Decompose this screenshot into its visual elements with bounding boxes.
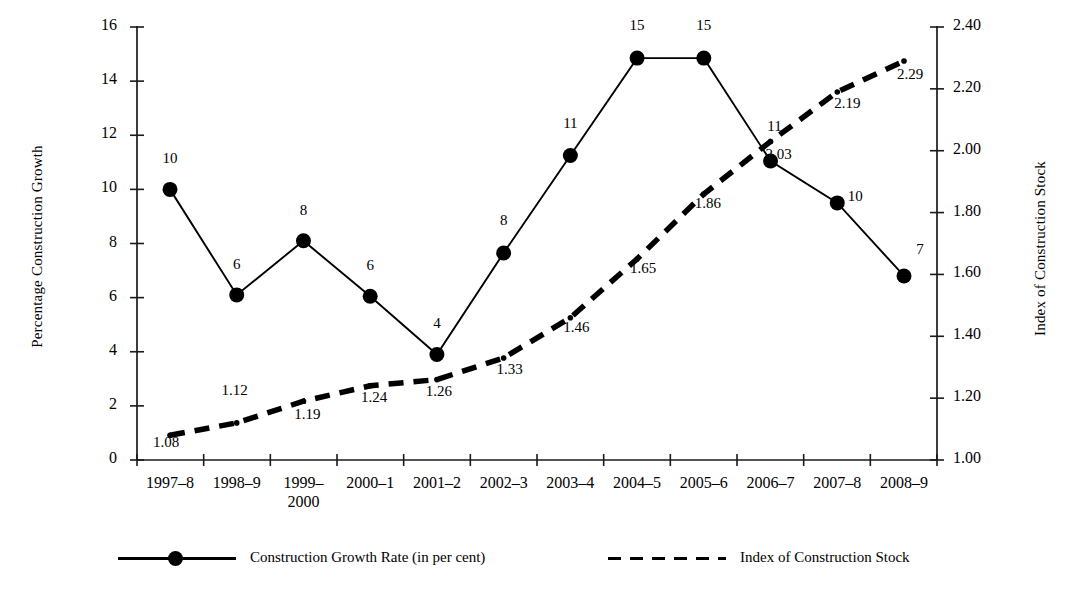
legend-label-construction-stock: Index of Construction Stock: [740, 549, 910, 566]
data-label-construction-stock: 1.26: [409, 383, 469, 400]
x-axis-tick-label: 2008–9: [858, 473, 950, 492]
data-label-growth-rate: 8: [273, 202, 333, 219]
data-point-growth-rate[interactable]: [163, 182, 178, 197]
data-label-construction-stock: 1.86: [678, 195, 738, 212]
y-axis-right-tick-label: 2.40: [953, 16, 999, 34]
legend-swatch-dashed-line-icon: [608, 551, 726, 565]
data-label-growth-rate: 6: [340, 257, 400, 274]
y-axis-right-tick-label: 2.00: [953, 140, 999, 158]
data-label-growth-rate: 4: [407, 315, 467, 332]
data-label-growth-rate: 10: [825, 188, 885, 205]
y-axis-left-tick-label: 14: [83, 70, 117, 88]
y-axis-left-tick-label: 16: [83, 16, 117, 34]
data-label-growth-rate: 15: [607, 17, 667, 34]
data-label-growth-rate: 10: [140, 150, 200, 167]
data-label-growth-rate: 6: [207, 256, 267, 273]
data-label-construction-stock: 1.19: [277, 406, 337, 423]
data-label-growth-rate: 11: [745, 118, 805, 135]
y-axis-left-tick-label: 12: [83, 124, 117, 142]
data-label-construction-stock: 2.19: [817, 95, 877, 112]
y-axis-left-tick-label: 2: [83, 395, 117, 413]
chart-figure: Percentage Construction Growth Index of …: [0, 0, 1075, 597]
data-point-growth-rate[interactable]: [563, 148, 578, 163]
y-axis-right-tick-label: 2.20: [953, 78, 999, 96]
data-point-growth-rate[interactable]: [496, 245, 511, 260]
y-axis-right-tick-label: 1.40: [953, 325, 999, 343]
chart-legend: Construction Growth Rate (in per cent) I…: [0, 545, 1075, 585]
data-label-construction-stock: 1.46: [546, 319, 606, 336]
legend-swatch-solid-line-icon: [118, 551, 236, 565]
data-point-growth-rate[interactable]: [897, 268, 912, 283]
data-point-construction-stock[interactable]: [501, 355, 507, 361]
y-axis-left-tick-label: 6: [83, 287, 117, 305]
y-axis-right-tick-label: 1.00: [953, 449, 999, 467]
data-label-construction-stock: 1.24: [344, 389, 404, 406]
data-point-growth-rate[interactable]: [229, 287, 244, 302]
legend-item-construction-stock[interactable]: Index of Construction Stock: [608, 549, 910, 566]
data-label-growth-rate: 11: [540, 115, 600, 132]
data-label-growth-rate: 15: [674, 17, 734, 34]
data-point-growth-rate[interactable]: [630, 51, 645, 66]
data-point-growth-rate[interactable]: [363, 289, 378, 304]
data-point-construction-stock[interactable]: [367, 383, 373, 389]
data-label-growth-rate: 8: [474, 212, 534, 229]
legend-item-growth-rate[interactable]: Construction Growth Rate (in per cent): [118, 549, 485, 566]
data-label-construction-stock: 1.12: [205, 382, 265, 399]
data-point-construction-stock[interactable]: [301, 398, 307, 404]
plot-area: [0, 0, 1075, 597]
data-label-construction-stock: 1.33: [480, 361, 540, 378]
data-point-growth-rate[interactable]: [696, 51, 711, 66]
data-point-growth-rate[interactable]: [429, 347, 444, 362]
data-point-growth-rate[interactable]: [296, 233, 311, 248]
data-label-construction-stock: 1.08: [136, 434, 196, 451]
data-label-construction-stock: 2.03: [749, 146, 809, 163]
y-axis-right-tick-label: 1.60: [953, 263, 999, 281]
y-axis-right-tick-label: 1.20: [953, 387, 999, 405]
data-point-construction-stock[interactable]: [901, 58, 907, 64]
y-axis-left-tick-label: 0: [83, 449, 117, 467]
data-point-construction-stock[interactable]: [834, 89, 840, 95]
data-label-construction-stock: 2.29: [880, 66, 940, 83]
y-axis-left-tick-label: 4: [83, 341, 117, 359]
data-point-construction-stock[interactable]: [768, 139, 774, 145]
legend-label-growth-rate: Construction Growth Rate (in per cent): [250, 549, 485, 566]
y-axis-left-tick-label: 8: [83, 233, 117, 251]
data-point-construction-stock[interactable]: [234, 420, 240, 426]
data-label-construction-stock: 1.65: [613, 260, 673, 277]
data-label-growth-rate: 7: [890, 241, 950, 258]
y-axis-left-tick-label: 10: [83, 178, 117, 196]
y-axis-right-tick-label: 1.80: [953, 202, 999, 220]
data-point-construction-stock[interactable]: [434, 377, 440, 383]
